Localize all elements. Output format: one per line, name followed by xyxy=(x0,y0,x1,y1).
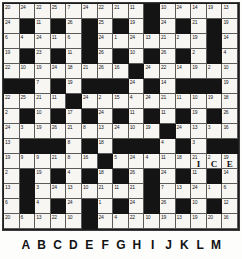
grid-open-cell[interactable]: 21 xyxy=(66,124,82,139)
grid-open-cell[interactable]: 19 xyxy=(207,94,223,109)
grid-open-cell[interactable]: 8 xyxy=(66,154,82,169)
grid-open-cell[interactable]: 25 xyxy=(51,4,67,19)
grid-open-cell[interactable]: 14 xyxy=(176,64,192,79)
grid-open-cell[interactable]: 19 xyxy=(4,154,20,169)
grid-open-cell[interactable]: 24 xyxy=(66,199,82,214)
grid-open-cell[interactable]: 24 xyxy=(20,4,36,19)
grid-open-cell[interactable]: 24 xyxy=(51,184,67,199)
grid-open-cell[interactable]: 4 xyxy=(66,169,82,184)
grid-open-cell[interactable]: 14 xyxy=(191,4,207,19)
grid-open-cell[interactable]: 11 xyxy=(160,154,176,169)
grid-open-cell[interactable]: 26 xyxy=(160,49,176,64)
grid-open-cell[interactable]: 10 xyxy=(82,184,98,199)
grid-open-cell[interactable]: 24 xyxy=(82,94,98,109)
grid-open-cell[interactable]: 3 xyxy=(191,139,207,154)
grid-open-cell[interactable]: 26 xyxy=(222,109,238,124)
grid-open-cell[interactable]: 22 xyxy=(51,214,67,229)
grid-open-cell[interactable]: 24 xyxy=(98,34,114,49)
grid-open-cell[interactable]: 21 xyxy=(35,94,51,109)
grid-open-cell[interactable]: 15 xyxy=(113,94,129,109)
grid-open-cell[interactable]: 19 xyxy=(191,109,207,124)
grid-open-cell[interactable]: 1 xyxy=(98,199,114,214)
grid-open-cell[interactable]: 6 xyxy=(4,34,20,49)
grid-open-cell[interactable]: 11 xyxy=(51,94,67,109)
grid-open-cell[interactable]: 25 xyxy=(98,19,114,34)
grid-open-cell[interactable]: 11 xyxy=(35,19,51,34)
grid-open-cell[interactable]: 11 xyxy=(51,34,67,49)
grid-open-cell[interactable]: 21 xyxy=(113,4,129,19)
grid-open-cell[interactable]: 26 xyxy=(98,64,114,79)
grid-open-cell[interactable]: 19 xyxy=(35,64,51,79)
grid-open-cell[interactable]: 10 xyxy=(144,214,160,229)
grid-open-cell[interactable]: 18 xyxy=(98,139,114,154)
grid-open-cell[interactable]: 2 xyxy=(4,109,20,124)
grid-open-cell[interactable]: 13 xyxy=(98,124,114,139)
grid-open-cell[interactable]: 22 xyxy=(4,64,20,79)
grid-open-cell[interactable]: 18 xyxy=(176,154,192,169)
grid-open-cell[interactable]: 24 xyxy=(4,124,20,139)
grid-open-cell[interactable]: 10 xyxy=(222,64,238,79)
grid-open-cell[interactable]: 24 xyxy=(129,154,145,169)
grid-open-cell[interactable]: 25 xyxy=(20,94,36,109)
grid-open-cell[interactable]: 3 xyxy=(35,184,51,199)
grid-open-cell[interactable]: 2 xyxy=(98,94,114,109)
grid-open-cell[interactable]: 1 xyxy=(207,184,223,199)
grid-open-cell[interactable]: 19 xyxy=(66,79,82,94)
grid-open-cell[interactable]: 19E xyxy=(222,154,238,169)
grid-open-cell[interactable]: 19 xyxy=(35,169,51,184)
grid-open-cell[interactable]: 7 xyxy=(66,4,82,19)
grid-open-cell[interactable]: 4 xyxy=(144,154,160,169)
grid-open-cell[interactable]: 6 xyxy=(4,199,20,214)
grid-open-cell[interactable]: 19 xyxy=(191,64,207,79)
grid-open-cell[interactable]: 13 xyxy=(35,214,51,229)
grid-open-cell[interactable]: 24 xyxy=(160,19,176,34)
grid-open-cell[interactable]: 22 xyxy=(98,4,114,19)
grid-open-cell[interactable]: 19 xyxy=(191,34,207,49)
grid-open-cell[interactable]: 21 xyxy=(51,154,67,169)
grid-open-cell[interactable]: 21I xyxy=(191,154,207,169)
grid-open-cell[interactable]: 16 xyxy=(222,124,238,139)
grid-open-cell[interactable]: 23 xyxy=(35,49,51,64)
grid-open-cell[interactable]: 2 xyxy=(4,169,20,184)
grid-open-cell[interactable]: 3 xyxy=(20,124,36,139)
grid-open-cell[interactable]: 19 xyxy=(144,124,160,139)
grid-open-cell[interactable]: 6 xyxy=(20,214,36,229)
grid-open-cell[interactable]: 13 xyxy=(4,139,20,154)
grid-open-cell[interactable]: 13 xyxy=(66,184,82,199)
grid-open-cell[interactable]: 24 xyxy=(176,4,192,19)
grid-open-cell[interactable]: 19 xyxy=(207,4,223,19)
grid-open-cell[interactable]: 26 xyxy=(66,19,82,34)
grid-open-cell[interactable]: 24 xyxy=(51,64,67,79)
grid-open-cell[interactable]: 19 xyxy=(191,214,207,229)
grid-open-cell[interactable]: 26 xyxy=(160,199,176,214)
grid-open-cell[interactable]: 3 xyxy=(207,124,223,139)
grid-open-cell[interactable]: 5 xyxy=(113,154,129,169)
grid-open-cell[interactable]: 13 xyxy=(222,4,238,19)
grid-open-cell[interactable]: 10 xyxy=(191,199,207,214)
grid-open-cell[interactable]: 7 xyxy=(160,184,176,199)
grid-open-cell[interactable]: 18 xyxy=(98,169,114,184)
grid-open-cell[interactable]: 24 xyxy=(82,4,98,19)
grid-open-cell[interactable]: 6 xyxy=(66,34,82,49)
grid-open-cell[interactable]: 24 xyxy=(129,34,145,49)
grid-open-cell[interactable]: 12 xyxy=(222,199,238,214)
grid-open-cell[interactable]: 4 xyxy=(222,49,238,64)
grid-open-cell[interactable]: 8 xyxy=(66,139,82,154)
grid-open-cell[interactable]: 11 xyxy=(129,4,145,19)
grid-open-cell[interactable]: 24 xyxy=(129,79,145,94)
grid-open-cell[interactable]: 24 xyxy=(129,199,145,214)
grid-open-cell[interactable]: 14 xyxy=(160,79,176,94)
grid-open-cell[interactable]: 21 xyxy=(129,184,145,199)
grid-open-cell[interactable]: 14 xyxy=(222,34,238,49)
grid-open-cell[interactable]: 24 xyxy=(144,64,160,79)
grid-open-cell[interactable]: 16 xyxy=(82,154,98,169)
grid-open-cell[interactable]: 10 xyxy=(191,94,207,109)
grid-open-cell[interactable]: 4 xyxy=(113,214,129,229)
grid-open-cell[interactable]: 11 xyxy=(66,49,82,64)
grid-open-cell[interactable]: 11 xyxy=(129,109,145,124)
grid-open-cell[interactable]: 13 xyxy=(191,124,207,139)
grid-open-cell[interactable]: 22 xyxy=(129,214,145,229)
grid-open-cell[interactable]: 2 xyxy=(191,49,207,64)
grid-open-cell[interactable]: 19 xyxy=(160,214,176,229)
grid-open-cell[interactable]: 13 xyxy=(176,214,192,229)
